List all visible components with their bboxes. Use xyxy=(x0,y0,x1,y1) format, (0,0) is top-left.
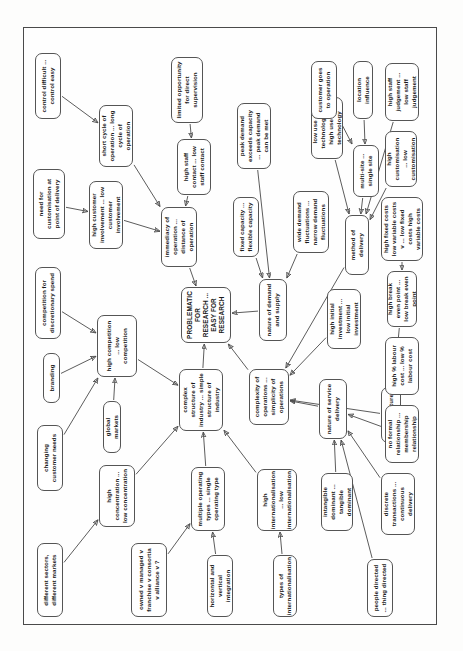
node-high-staff-judgement: high staff judgement ... low staff judge… xyxy=(385,63,419,121)
node-high-customer-involvement: high customer involvement ... low custom… xyxy=(89,181,123,249)
node-high-fixed-costs: high fixed costs low variable costs v ..… xyxy=(381,197,423,261)
node-branding: branding xyxy=(43,353,60,403)
node-changing-customer-needs: changing customer needs xyxy=(37,425,63,491)
node-multiple-operating-types: multiple operating types ... single oper… xyxy=(191,467,225,531)
node-people-directed: people directed ... thing directed xyxy=(367,559,393,617)
node-location-influence: location influence xyxy=(353,61,373,119)
node-complex-structure: complex structure of industry ... simple… xyxy=(179,369,223,431)
node-high-competition: high competition ... low competition xyxy=(97,315,137,377)
node-complexity-operations: complexity of operations ... simplicity … xyxy=(249,369,289,425)
node-high-internationalisation: high internationalisation ... low intern… xyxy=(257,469,297,531)
node-customer-goes-to-operation: customer goes to operation xyxy=(311,61,337,119)
node-competition-discretionary: competition for discretionary spend xyxy=(35,267,61,339)
node-limited-supervision: limited opportunity for direct supervisi… xyxy=(171,57,203,123)
node-multi-site: multi-site ... single site xyxy=(353,145,379,197)
node-nature-demand-supply: nature of demand and supply xyxy=(259,279,287,341)
node-peak-demand: peak demand exceeds capacity ... peak de… xyxy=(237,103,271,169)
node-wide-demand-fluctuations: wide demand fluctuations ... narrow dema… xyxy=(293,191,329,253)
scanned-page: different sectors, different marketschan… xyxy=(0,0,463,651)
node-high-staff-contact: high staff contact ... low staff contact xyxy=(177,139,211,195)
node-high-customisation: high customisation ... low customisation xyxy=(385,131,417,187)
node-discrete-transactions: discrete transactions ... continuous del… xyxy=(381,473,415,535)
node-high-concentration: high concentration ... low concentration xyxy=(99,465,135,527)
node-no-formal-relationship: no formal relationship ... membership re… xyxy=(385,405,419,463)
node-high-labour-cost: high % labour cost ... low % labour cost xyxy=(385,337,419,395)
node-nature-service-delivery: nature of service delivery xyxy=(319,379,347,439)
node-high-initial-investment: high initial investment ... low initial … xyxy=(327,289,361,349)
diagram-rotated-stage: different sectors, different marketschan… xyxy=(11,12,452,639)
node-method-of-delivery: method of delivery xyxy=(345,215,369,275)
node-high-break-even: high break even point ... low break even… xyxy=(387,271,417,327)
node-different-sectors: different sectors, different markets xyxy=(37,543,63,617)
node-owned-v-managed: owned v managed v franchise v consortia … xyxy=(131,543,167,617)
node-problematic-research: PROBLEMATIC FOR RESEARCH ... EASY FOR RE… xyxy=(181,287,231,343)
node-horizontal-vertical: horizontal and vertical integration xyxy=(207,555,233,617)
node-types-internationalisation: types of internationalisation xyxy=(273,555,297,617)
node-intangible-dominant: intangible dominant ... tangible dominan… xyxy=(321,473,353,531)
node-short-cycle: short cycle of operation ... long cycle … xyxy=(99,105,133,167)
node-need-customisation: need for customisation at point of deliv… xyxy=(33,169,65,239)
node-global-markets: global markets xyxy=(103,401,121,453)
node-fixed-capacity: fixed capacity ... flexible capacity xyxy=(233,197,259,257)
node-control-difficult: control difficult ... control easy xyxy=(35,53,61,119)
node-immediacy-of-operation: immediacy of operation ... distance of o… xyxy=(161,207,197,267)
